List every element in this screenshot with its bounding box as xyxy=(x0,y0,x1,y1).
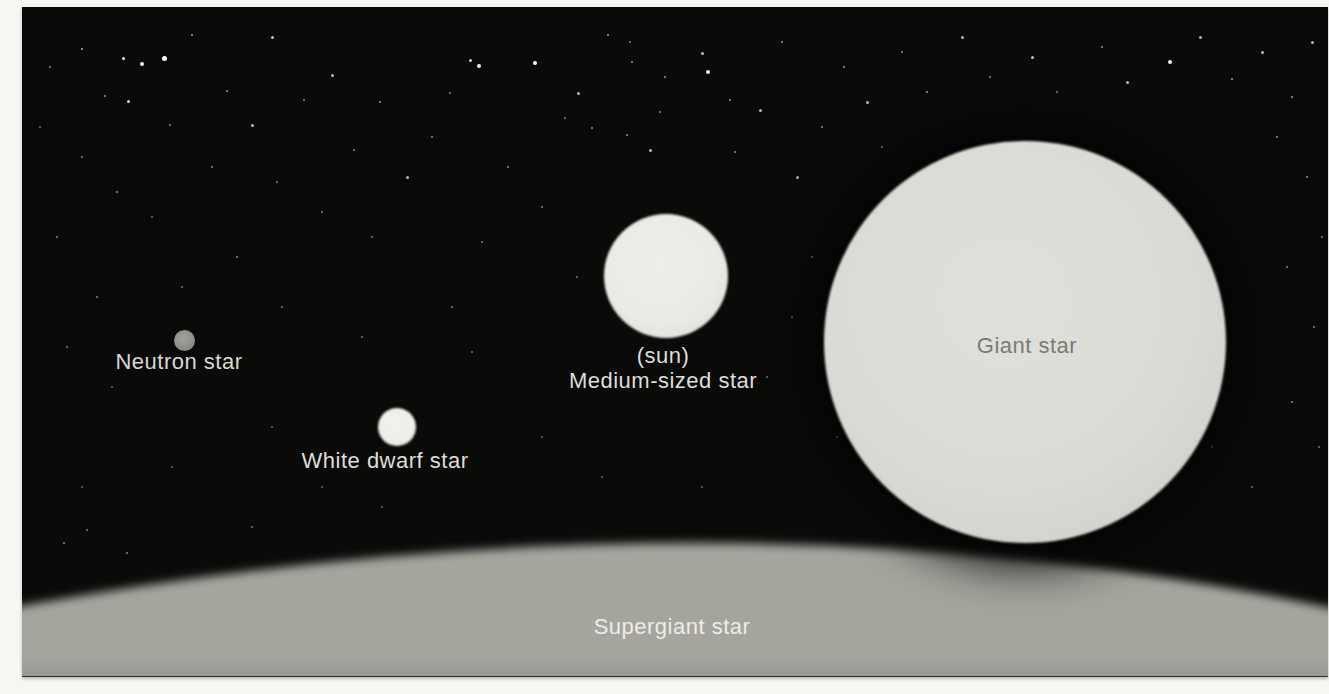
supergiant-star-label: Supergiant star xyxy=(594,614,751,639)
sun-medium-star-disk xyxy=(604,214,728,338)
page: Neutron star White dwarf star (sun) Medi… xyxy=(0,0,1329,694)
white-dwarf-star-label: White dwarf star xyxy=(302,448,469,473)
giant-star-label: Giant star xyxy=(977,333,1077,358)
sun-label-line1: (sun) xyxy=(569,343,757,368)
sun-label-line2: Medium-sized star xyxy=(569,368,757,393)
white-dwarf-star-disk xyxy=(378,408,416,446)
sun-medium-star-label: (sun) Medium-sized star xyxy=(569,343,757,393)
star-size-comparison-diagram: Neutron star White dwarf star (sun) Medi… xyxy=(22,7,1328,677)
neutron-star-disk xyxy=(174,330,195,351)
neutron-star-label: Neutron star xyxy=(115,349,242,374)
